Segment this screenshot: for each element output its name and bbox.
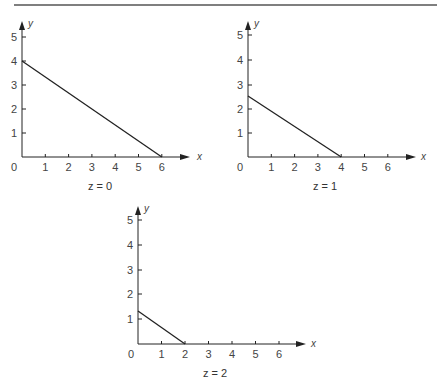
plot-caption: z = 0	[88, 180, 112, 192]
plot-z2: 0 1 2 3 4 5 6 1 2 3 4 5 x y z = 2	[127, 203, 317, 379]
x-tick-label: 3	[315, 161, 321, 173]
y-ticks	[248, 35, 252, 133]
x-tick-label: 5	[135, 161, 141, 173]
y-axis-label: y	[27, 18, 34, 29]
x-tick-label: 5	[361, 161, 367, 173]
y-tick-label: 2	[11, 103, 17, 115]
plot-caption: z = 2	[203, 367, 227, 379]
x-tick-label: 1	[158, 348, 164, 360]
y-tick-label: 1	[127, 313, 133, 325]
y-axis-arrow-icon	[19, 21, 25, 30]
x-tick-label: 6	[385, 161, 391, 173]
y-tick-label: 4	[127, 239, 133, 251]
y-tick-label: 5	[11, 31, 17, 43]
y-tick-label: 1	[237, 127, 243, 139]
x-tick-label: 4	[338, 161, 344, 173]
x-tick-label: 4	[229, 348, 235, 360]
x-axis-arrow-icon	[406, 154, 416, 160]
x-tick-label: 6	[276, 348, 282, 360]
x-tick-label: 2	[182, 348, 188, 360]
plot-caption: z = 1	[313, 180, 337, 192]
x-axis-label: x	[420, 151, 427, 162]
y-tick-label: 2	[127, 288, 133, 300]
x-tick-label: 3	[89, 161, 95, 173]
y-tick-label: 5	[237, 29, 243, 41]
figure-canvas: 0 1 2 3 4 5 6 1 2 3 4 5 x y z = 0 0 1	[0, 0, 437, 380]
plot-z1: 0 1 2 3 4 5 6 1 2 3 4 5 x y z = 1	[237, 18, 427, 192]
x-axis-label: x	[196, 151, 203, 162]
y-axis-arrow-icon	[245, 21, 251, 30]
y-tick-label: 3	[237, 79, 243, 91]
y-axis-label: y	[253, 18, 260, 29]
y-tick-label: 2	[237, 103, 243, 115]
y-axis-label: y	[143, 203, 150, 214]
y-ticks	[138, 220, 142, 319]
y-tick-label: 4	[11, 55, 17, 67]
y-ticks	[22, 37, 26, 133]
y-tick-label: 3	[127, 264, 133, 276]
x-tick-label: 1	[268, 161, 274, 173]
y-tick-label: 5	[127, 214, 133, 226]
origin-label: 0	[128, 348, 134, 360]
plot-z0: 0 1 2 3 4 5 6 1 2 3 4 5 x y z = 0	[11, 18, 203, 192]
x-tick-label: 4	[112, 161, 118, 173]
trace-line	[138, 311, 185, 344]
trace-line	[22, 61, 162, 157]
x-axis-label: x	[310, 338, 317, 349]
x-tick-label: 1	[42, 161, 48, 173]
x-axis-arrow-icon	[180, 154, 190, 160]
x-tick-label: 3	[205, 348, 211, 360]
x-tick-label: 2	[66, 161, 72, 173]
y-tick-label: 1	[11, 127, 17, 139]
x-tick-label: 6	[159, 161, 165, 173]
x-tick-label: 2	[292, 161, 298, 173]
origin-label: 0	[11, 161, 17, 173]
x-axis-arrow-icon	[296, 341, 306, 347]
y-tick-label: 3	[11, 79, 17, 91]
y-tick-label: 4	[237, 54, 243, 66]
trace-line	[248, 96, 341, 157]
x-tick-label: 5	[252, 348, 258, 360]
y-axis-arrow-icon	[135, 206, 141, 215]
origin-label: 0	[237, 161, 243, 173]
